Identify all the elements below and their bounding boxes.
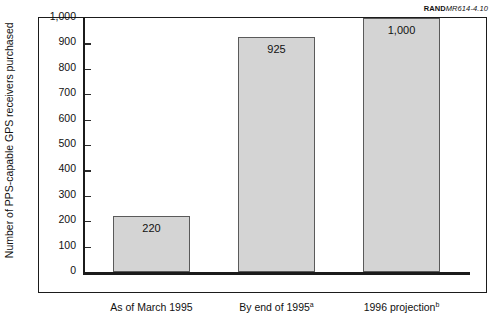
x-axis-line — [83, 272, 470, 275]
y-axis-tick-mark — [85, 120, 91, 121]
y-axis-title: Number of PPS-capable GPS receivers purc… — [0, 0, 18, 280]
bar: 1,000 — [363, 18, 440, 272]
y-axis-tick-label: 500 — [36, 138, 76, 149]
y-axis-tick-label: 400 — [36, 163, 76, 174]
y-axis-tick-mark — [85, 145, 91, 146]
category-footnote-marker: b — [435, 301, 439, 308]
y-axis-tick-mark — [85, 69, 91, 70]
bar-value-label: 1,000 — [364, 25, 439, 36]
rand-logo-text: RAND — [424, 4, 446, 13]
y-axis-tick-label: 1,000 — [36, 11, 76, 22]
y-axis-title-text: Number of PPS-capable GPS receivers purc… — [4, 22, 15, 258]
y-axis-tick-mark — [85, 43, 91, 44]
bar-value-label: 220 — [114, 223, 189, 234]
bar-value-label: 925 — [239, 44, 314, 55]
y-axis-tick-label: 0 — [36, 265, 76, 276]
y-axis-tick-label: 200 — [36, 214, 76, 225]
document-number: MR614-4.10 — [446, 4, 488, 13]
y-axis-tick-label: 900 — [36, 36, 76, 47]
y-axis-tick-mark — [85, 247, 91, 248]
y-axis-tick-mark — [85, 196, 91, 197]
y-axis-tick-label: 800 — [36, 62, 76, 73]
bar: 925 — [238, 37, 315, 272]
y-axis-tick-mark — [85, 170, 91, 171]
y-axis-tick-label: 300 — [36, 189, 76, 200]
y-axis-tick-mark — [85, 221, 91, 222]
source-credit: RANDMR614-4.10 — [424, 5, 488, 13]
y-axis-tick-mark — [85, 94, 91, 95]
y-axis-tick-label: 700 — [36, 87, 76, 98]
bar: 220 — [113, 216, 190, 272]
plot-area: 01002003004005006007008009001,000 220925… — [83, 18, 470, 272]
y-axis-tick-label: 100 — [36, 240, 76, 251]
category-footnote-marker: a — [310, 301, 314, 308]
y-axis-tick-label: 600 — [36, 113, 76, 124]
x-axis-category-label: 1996 projectionb — [322, 302, 482, 313]
